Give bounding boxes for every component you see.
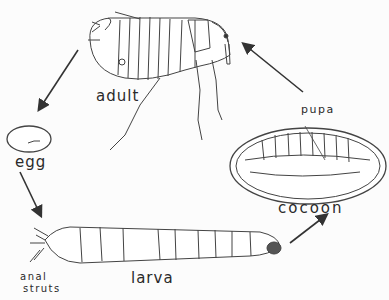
label-anal-struts-line1: anal bbox=[20, 271, 47, 283]
cocoon-illustration bbox=[230, 126, 386, 204]
arrow-cocoon-to-adult bbox=[245, 45, 303, 92]
flea-life-cycle-diagram: adult egg larva anal struts pupa cocoon bbox=[0, 0, 389, 300]
arrow-adult-to-egg bbox=[40, 50, 78, 108]
arrow-egg-to-larva bbox=[20, 172, 40, 214]
arrow-larva-to-cocoon bbox=[290, 216, 325, 243]
label-anal-struts-line2: struts bbox=[23, 283, 61, 295]
adult-flea-illustration bbox=[88, 12, 230, 150]
label-cocoon: cocoon bbox=[278, 199, 344, 217]
label-adult: adult bbox=[96, 87, 139, 105]
label-egg: egg bbox=[15, 153, 46, 171]
larva-illustration bbox=[30, 227, 281, 263]
label-pupa: pupa bbox=[301, 104, 335, 116]
egg-illustration bbox=[7, 126, 51, 152]
diagram-drawing bbox=[0, 0, 389, 300]
label-larva: larva bbox=[131, 269, 174, 287]
